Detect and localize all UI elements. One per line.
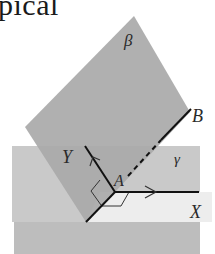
beta-label: β [123, 31, 133, 50]
point-a-label: A [113, 172, 124, 189]
ray-x-label: X [189, 202, 202, 222]
lower-plane [14, 222, 200, 254]
ray-b-label: B [192, 106, 203, 126]
geometry-diagram: β γ A X Y B [0, 0, 215, 254]
